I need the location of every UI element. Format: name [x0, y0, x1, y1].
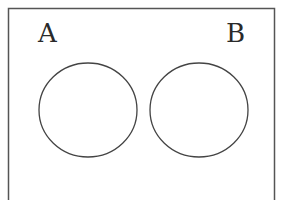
set-a-circle — [39, 63, 137, 157]
venn-diagram: A B — [0, 0, 284, 200]
set-b-circle — [150, 63, 248, 157]
set-b-label: B — [226, 18, 245, 48]
set-a-label: A — [37, 18, 58, 48]
